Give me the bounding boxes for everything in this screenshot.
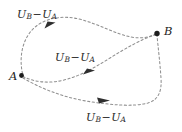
lower-path-arrowhead	[97, 98, 110, 104]
middle-label-sub2: A	[90, 55, 95, 64]
point-b-marker	[154, 31, 159, 36]
upper-path-label: UB−UA	[17, 8, 57, 21]
upper-label-u1: U	[17, 8, 26, 21]
point-a-marker	[19, 73, 24, 78]
upper-label-sub2: A	[52, 12, 57, 21]
middle-label-u2: U	[80, 51, 89, 64]
middle-path-arrowhead	[83, 69, 95, 75]
lower-label-u1: U	[86, 111, 95, 124]
upper-label-operator: −	[32, 8, 42, 21]
middle-label-u1: U	[55, 51, 64, 64]
point-a-label: A	[9, 69, 17, 83]
upper-path-arrowhead	[45, 22, 56, 29]
lower-label-u2: U	[111, 111, 120, 124]
lower-label-sub2: A	[121, 115, 126, 124]
lower-path-label: UB−UA	[86, 111, 126, 124]
upper-label-u2: U	[42, 8, 51, 21]
lower-label-operator: −	[101, 111, 111, 124]
middle-path-label: UB−UA	[55, 51, 95, 64]
upper-path-curve	[21, 17, 156, 73]
potential-energy-path-diagram: UB−UA UB−UA UB−UA A B	[0, 0, 182, 132]
middle-label-operator: −	[70, 51, 80, 64]
point-b-label: B	[164, 24, 172, 38]
